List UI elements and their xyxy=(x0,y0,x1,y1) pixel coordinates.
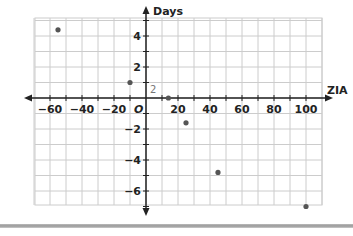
y-tick-label: −6 xyxy=(124,185,141,198)
x-axis-title: ZIA xyxy=(327,84,348,97)
data-point xyxy=(166,95,171,100)
x-tick-label: −40 xyxy=(70,103,95,116)
x-tick-label: 40 xyxy=(202,103,218,116)
bottom-divider xyxy=(0,224,353,228)
x-tick-label: 20 xyxy=(170,103,186,116)
data-point xyxy=(215,170,220,175)
y-axis-title: Days xyxy=(153,5,183,18)
annotation-label: 2 xyxy=(150,84,156,95)
data-point xyxy=(183,120,188,125)
y-tick-label: 2 xyxy=(133,61,141,74)
x-tick-label: −20 xyxy=(102,103,127,116)
y-tick-label: −2 xyxy=(124,123,141,136)
x-tick-label: 60 xyxy=(234,103,250,116)
data-point xyxy=(55,27,60,32)
y-tick-label: −4 xyxy=(124,154,141,167)
data-points xyxy=(55,27,308,209)
scatter-chart: −60−40−202040608010042−2−4−6 ZIA Days O … xyxy=(0,0,353,236)
origin-label: O xyxy=(134,103,143,116)
y-tick-label: 4 xyxy=(133,30,141,43)
x-tick-label: −60 xyxy=(38,103,63,116)
data-point xyxy=(127,80,132,85)
x-tick-label: 80 xyxy=(266,103,282,116)
x-tick-label: 100 xyxy=(295,103,318,116)
data-point xyxy=(303,204,308,209)
